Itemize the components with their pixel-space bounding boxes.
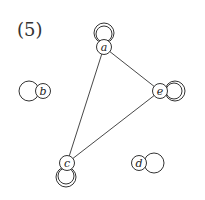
figure-label: (5): [17, 19, 43, 40]
node-a: a: [97, 40, 112, 55]
node-c: c: [60, 156, 75, 171]
svg-text:d: d: [135, 157, 142, 170]
node-d: d: [132, 156, 147, 171]
node-b: b: [36, 84, 51, 99]
svg-text:e: e: [157, 85, 164, 98]
svg-text:a: a: [101, 41, 108, 54]
svg-text:b: b: [39, 85, 46, 98]
svg-text:c: c: [64, 157, 70, 170]
node-e: e: [153, 84, 168, 99]
edge-a-e: [104, 47, 160, 91]
edge-c-e: [67, 91, 160, 163]
edge-a-c: [67, 47, 104, 163]
graph-diagram: (5) a b c d e: [0, 0, 205, 200]
